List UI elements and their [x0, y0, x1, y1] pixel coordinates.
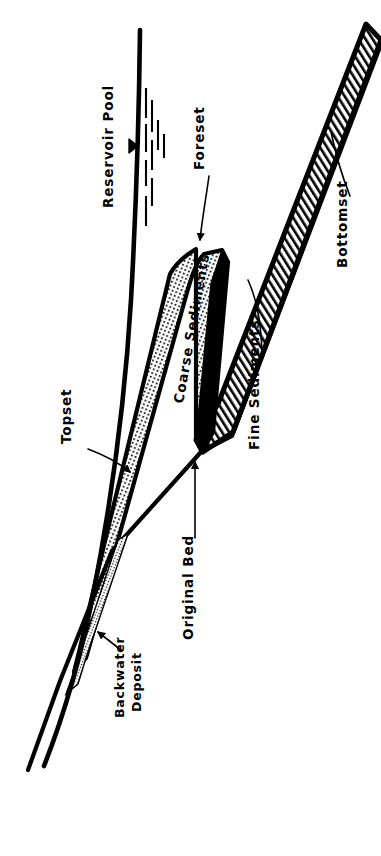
- label-backwater-deposit-line2: Deposit: [129, 652, 144, 712]
- label-reservoir-pool: Reservoir Pool: [100, 85, 116, 208]
- label-fine-sediments: Fine Sediments: [246, 320, 262, 450]
- label-foreset: Foreset: [191, 106, 207, 170]
- label-backwater-deposit-line1: Backwater: [112, 636, 127, 718]
- label-bottomset: Bottomset: [334, 180, 350, 268]
- figure-root: Reservoir Pool Foreset Bottomset Topset …: [0, 0, 381, 856]
- label-original-bed: Original Bed: [180, 535, 196, 640]
- label-topset: Topset: [58, 389, 74, 444]
- reservoir-delta-diagram: Reservoir Pool Foreset Bottomset Topset …: [0, 0, 381, 856]
